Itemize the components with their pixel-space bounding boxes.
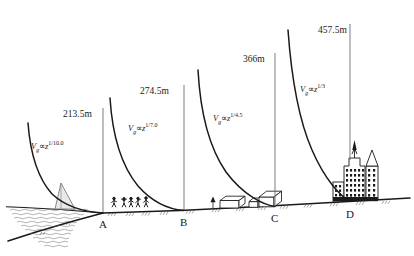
people-group: [112, 197, 149, 207]
profile-equation-D: Vg∝z1/3: [300, 83, 325, 96]
profile-eq-exp-A: 1/10.0: [48, 140, 63, 146]
profile-curve-C: [198, 70, 275, 207]
wind-profile-curves: [28, 30, 350, 213]
gradient-height-label-B: 274.5m: [140, 87, 169, 97]
profile-equation-B: Vg∝z1/7.0: [128, 122, 158, 135]
profile-eq-exp-B: 1/7.0: [145, 122, 157, 128]
profile-equation-C: Vg∝z1/4.5: [213, 112, 243, 125]
house-1: [220, 196, 245, 208]
profile-curve-B: [110, 98, 184, 211]
ground-texture: [40, 201, 390, 235]
station-label-A: A: [99, 219, 107, 230]
profile-curve-D: [288, 30, 350, 201]
gradient-height-label-D: 457.5m: [318, 26, 347, 36]
station-label-D: D: [346, 209, 354, 220]
gradient-height-label-A: 213.5m: [63, 110, 92, 120]
wind-profile-figure: 213.5m 274.5m 366m 457.5m A B C D Vg∝z1/…: [0, 0, 414, 256]
gradient-height-label-C: 366m: [243, 55, 265, 65]
profile-eq-exp-D: 1/3: [317, 83, 325, 89]
city-skyline: [333, 140, 378, 201]
station-label-C: C: [271, 213, 278, 224]
sailboat-icon: [55, 183, 75, 209]
house-3: [259, 191, 282, 207]
profile-equation-A: Vg∝z1/10.0: [31, 140, 64, 153]
tree-icon: [210, 197, 215, 209]
profile-eq-exp-C: 1/4.5: [230, 112, 242, 118]
station-label-B: B: [180, 217, 187, 228]
